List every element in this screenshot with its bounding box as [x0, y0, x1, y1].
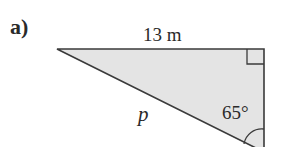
right-triangle	[57, 49, 264, 147]
triangle-diagram: a) 13 m p 65°	[0, 0, 284, 147]
angle-label: 65°	[222, 102, 249, 124]
part-label: a)	[10, 14, 28, 40]
top-side-label: 13 m	[143, 24, 182, 46]
hypotenuse-label: p	[138, 102, 149, 127]
